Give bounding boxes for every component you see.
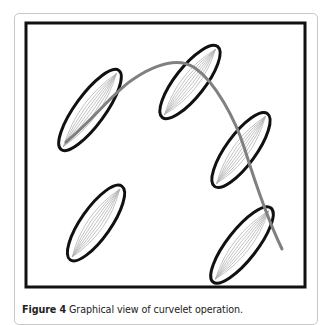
- curvelet-ellipse: [49, 62, 131, 159]
- curvelet-ellipse: [150, 37, 229, 126]
- figure-label: Figure 4: [22, 304, 66, 315]
- figure-caption: Figure 4 Graphical view of curvelet oper…: [22, 304, 243, 315]
- curvelet-ellipse: [58, 178, 134, 269]
- curvelet-ellipses: [49, 37, 283, 291]
- curvelet-ellipse: [202, 105, 279, 195]
- figure-caption-text: Graphical view of curvelet operation.: [69, 304, 243, 315]
- curvelet-ellipse: [201, 199, 283, 292]
- edge-curve: [66, 63, 282, 249]
